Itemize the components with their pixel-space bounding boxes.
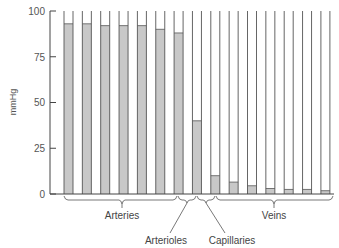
y-axis: 100 75 50 25 0 mmHg — [8, 6, 56, 200]
y-axis-label: mmHg — [8, 89, 18, 116]
arterioles-bracket — [178, 196, 196, 203]
bar — [229, 11, 238, 194]
y-tick-25: 25 — [34, 143, 46, 154]
y-tick-75: 75 — [34, 52, 46, 63]
bar-fill — [174, 33, 183, 194]
label-arterioles: Arterioles — [145, 235, 187, 246]
bar-fill — [101, 26, 110, 194]
bar — [266, 11, 275, 194]
veins-bracket — [216, 196, 333, 204]
bar-fill — [303, 189, 312, 194]
bars — [64, 11, 330, 194]
bar-fill — [266, 189, 275, 194]
y-tick-0: 0 — [39, 189, 45, 200]
bar — [137, 11, 146, 194]
bar — [192, 11, 201, 194]
bar — [64, 11, 73, 194]
bar-fill — [64, 24, 73, 194]
capillaries-bracket — [197, 196, 215, 203]
bar — [211, 11, 220, 194]
bar — [82, 11, 91, 194]
y-tick-100: 100 — [28, 6, 45, 17]
bar — [321, 11, 330, 194]
bar — [248, 11, 257, 194]
label-capillaries: Capillaries — [209, 235, 256, 246]
bar — [174, 11, 183, 194]
label-veins: Veins — [262, 210, 286, 221]
bar-fill — [229, 182, 238, 194]
bar — [284, 11, 293, 194]
bar-fill — [211, 176, 220, 194]
y-tick-50: 50 — [34, 97, 46, 108]
arteries-bracket — [64, 196, 177, 204]
bar-fill — [156, 29, 165, 194]
bar-fill — [137, 26, 146, 194]
bar-fill — [248, 186, 257, 194]
pressure-bar-chart: 100 75 50 25 0 mmHg Arteries Arterioles … — [0, 0, 339, 248]
bar-fill — [82, 24, 91, 194]
bar — [119, 11, 128, 194]
bar — [303, 11, 312, 194]
bar — [156, 11, 165, 194]
label-arteries: Arteries — [105, 210, 139, 221]
bar-fill — [192, 121, 201, 194]
bar-fill — [119, 26, 128, 194]
bar — [101, 11, 110, 194]
bar-fill — [284, 189, 293, 194]
